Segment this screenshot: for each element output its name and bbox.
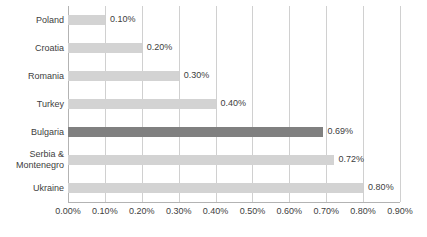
category-label-slot: Bulgaria [0, 118, 64, 146]
category-label-slot: Ukraine [0, 174, 64, 202]
bar-row: 0.10% [68, 6, 400, 34]
plot-area: 0.10%0.20%0.30%0.40%0.69%0.72%0.80% [68, 6, 400, 202]
bar-chart: PolandCroatiaRomaniaTurkeyBulgariaSerbia… [0, 0, 427, 237]
category-label: Poland [2, 15, 64, 26]
x-tick-label: 0.90% [387, 206, 413, 216]
category-label: Bulgaria [2, 127, 64, 138]
x-tick-label: 0.20% [129, 206, 155, 216]
gridline [400, 6, 401, 202]
x-tick-label: 0.70% [313, 206, 339, 216]
x-tick-label: 0.40% [203, 206, 229, 216]
bar [68, 155, 334, 165]
bar-row: 0.40% [68, 90, 400, 118]
bar-row: 0.80% [68, 174, 400, 202]
bar-row: 0.69% [68, 118, 400, 146]
x-tick-label: 0.80% [350, 206, 376, 216]
x-axis-tick-labels: 0.00%0.10%0.20%0.30%0.40%0.50%0.60%0.70%… [0, 206, 427, 222]
x-tick-label: 0.50% [240, 206, 266, 216]
bar-value-label: 0.69% [328, 125, 354, 137]
x-tick-label: 0.30% [166, 206, 192, 216]
category-label-slot: Serbia & Montenegro [0, 146, 64, 174]
bar [68, 71, 179, 81]
bar-value-label: 0.20% [147, 41, 173, 53]
category-label-slot: Croatia [0, 34, 64, 62]
x-tick-label: 0.00% [55, 206, 81, 216]
category-label: Ukraine [2, 183, 64, 194]
bar-highlighted [68, 127, 323, 137]
bar [68, 99, 216, 109]
x-tick-label: 0.60% [277, 206, 303, 216]
bar-row: 0.20% [68, 34, 400, 62]
x-tick-label: 0.10% [92, 206, 118, 216]
category-axis-labels: PolandCroatiaRomaniaTurkeyBulgariaSerbia… [0, 6, 64, 202]
bar-row: 0.30% [68, 62, 400, 90]
category-label-slot: Romania [0, 62, 64, 90]
category-label: Serbia & Montenegro [2, 149, 64, 171]
category-label: Turkey [2, 99, 64, 110]
x-axis-line [68, 202, 400, 203]
category-label-slot: Turkey [0, 90, 64, 118]
bar-value-label: 0.30% [184, 69, 210, 81]
bar-value-label: 0.72% [339, 153, 365, 165]
bar-row: 0.72% [68, 146, 400, 174]
category-label-slot: Poland [0, 6, 64, 34]
category-label: Croatia [2, 43, 64, 54]
bar-value-label: 0.40% [221, 97, 247, 109]
bar [68, 183, 363, 193]
bar-value-label: 0.80% [368, 181, 394, 193]
category-label: Romania [2, 71, 64, 82]
bar [68, 43, 142, 53]
bar-value-label: 0.10% [110, 13, 136, 25]
bar [68, 15, 105, 25]
